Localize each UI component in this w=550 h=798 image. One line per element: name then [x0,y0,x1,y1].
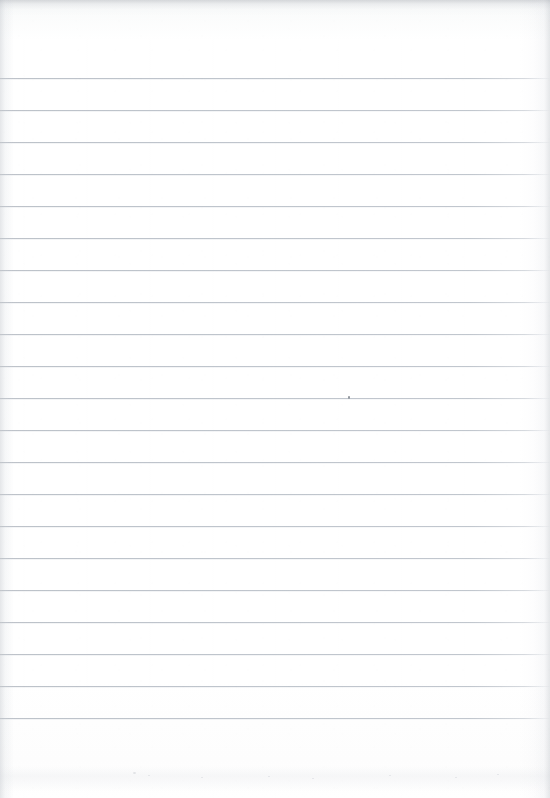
ruled-line [0,430,550,431]
ruled-line [0,366,550,367]
ruled-line [0,654,550,655]
ruled-line [0,622,550,623]
ruled-line [0,142,550,143]
ruled-line [0,110,550,111]
ruled-line [0,686,550,687]
ruled-line [0,78,550,79]
ruled-line [0,270,550,271]
ruled-line [0,718,550,719]
ruled-line [0,206,550,207]
ruled-line [0,238,550,239]
scanned-page [0,0,550,798]
ruled-line [0,558,550,559]
ruled-line [0,494,550,495]
ruled-line [0,174,550,175]
ruled-line [0,462,550,463]
ruled-line [0,302,550,303]
ruled-line [0,526,550,527]
ruled-line [0,590,550,591]
ruled-line [0,334,550,335]
ruled-line [0,398,550,399]
ruled-lines-group [0,0,550,798]
